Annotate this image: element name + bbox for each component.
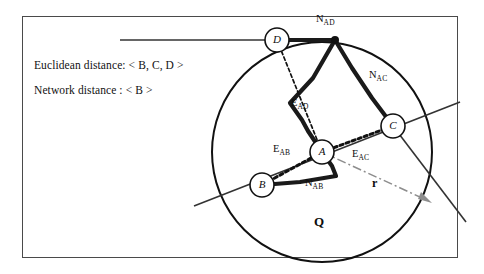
node-label-d: D (267, 33, 287, 45)
node-label-a: A (312, 145, 332, 157)
edge-label-e-ad-sub: AD (297, 102, 308, 111)
edge-label-n-ac-sub: AC (377, 74, 388, 83)
edge-label-e-ab-sub: AB (279, 148, 290, 157)
diagram-canvas (0, 0, 484, 274)
edge-label-n-ab: NAB (305, 177, 323, 191)
edge-label-e-ad: EAD (291, 97, 309, 111)
edge-label-n-ad-sub: AD (324, 18, 335, 27)
road-line-through-c (393, 126, 466, 222)
figure-page: Euclidean distance: < B, C, D > Network … (0, 0, 484, 274)
edge-label-n-ad-base: N (316, 13, 324, 24)
edge-label-n-ac: NAC (369, 69, 387, 83)
edge-label-n-ab-base: N (305, 177, 313, 188)
network-path-ad (277, 40, 335, 152)
edge-label-n-ab-sub: AB (313, 182, 324, 191)
edge-label-e-ac-sub: AC (358, 153, 369, 162)
legend-euclidean-distance: Euclidean distance: < B, C, D > (34, 59, 184, 71)
node-label-c: C (383, 119, 403, 131)
edge-label-e-ac: EAC (352, 148, 369, 162)
radius-label-r: r (372, 176, 377, 191)
edge-label-n-ad: NAD (316, 13, 335, 27)
junction-node (331, 36, 339, 44)
edge-label-e-ab: EAB (273, 143, 290, 157)
node-label-b: B (252, 178, 272, 190)
legend-network-distance: Network distance : < B > (34, 84, 153, 96)
euclidean-line-ad (277, 40, 322, 152)
edge-label-n-ac-base: N (369, 69, 377, 80)
region-label-q: Q (314, 214, 324, 230)
